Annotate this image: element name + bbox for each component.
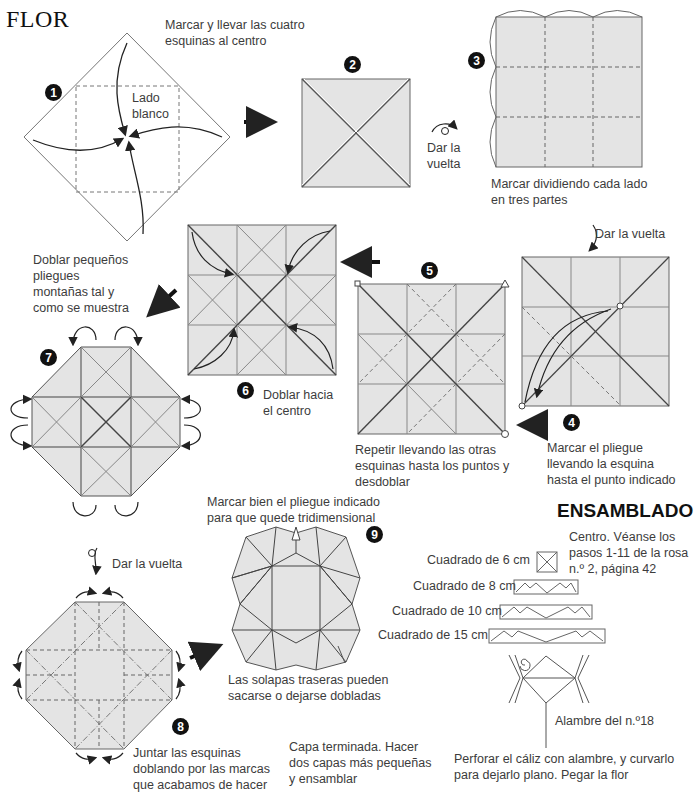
step-1-inner-label: Lado blanco	[132, 90, 169, 122]
step-9-badge: 9	[366, 526, 383, 543]
step9-diagram	[232, 527, 360, 670]
step-3-badge: 3	[468, 52, 485, 69]
step-3-turn-label: Dar la vuelta	[427, 140, 460, 172]
step-6-badge: 6	[237, 382, 254, 399]
step-9-caption-bottom: Las solapas traseras pueden sacarse o de…	[228, 672, 389, 704]
layer-label-6cm: Cuadrado de 6 cm	[427, 553, 530, 567]
step-7-badge: 7	[40, 349, 57, 366]
step-7-caption: Doblar pequeños pliegues montañas tal y …	[33, 252, 129, 316]
step8-diagram	[18, 548, 180, 759]
step-9-caption-final: Capa terminada. Hacer dos capas más pequ…	[289, 739, 431, 787]
step-2-badge: 2	[344, 56, 361, 73]
page-title: FLOR	[6, 6, 69, 33]
wire-label: Alambre del n.º18	[555, 714, 654, 728]
step4-diagram	[519, 225, 669, 409]
turn-over-icon	[432, 124, 456, 135]
step-6-caption: Doblar hacia el centro	[263, 387, 333, 419]
layer-label-15cm: Cuadrado de 15 cm	[378, 628, 488, 642]
step6-diagram	[188, 225, 336, 375]
assembly-center-note: Centro. Véanse los pasos 1-11 de la rosa…	[569, 529, 688, 577]
step5-diagram	[355, 280, 509, 438]
assembly-final-note: Perforar el cáliz con alambre, y curvarl…	[454, 751, 674, 783]
step-4-turn-label: Dar la vuelta	[595, 226, 665, 242]
step2-diagram	[302, 79, 410, 187]
assembly-heading: ENSAMBLADO	[557, 500, 693, 522]
step1-diagram	[24, 33, 230, 241]
step-8-turn-label: Dar la vuelta	[112, 556, 182, 572]
step-1-badge: 1	[45, 84, 62, 101]
step-4-caption: Marcar el pliegue llevando la esquina ha…	[547, 440, 676, 488]
step-8-caption: Juntar las esquinas doblando por las mar…	[133, 745, 270, 792]
step3-diagram	[490, 11, 642, 168]
step-9-caption-top: Marcar bien el pliegue indicado para que…	[207, 494, 380, 526]
layer-label-10cm: Cuadrado de 10 cm	[392, 604, 502, 618]
step-1-caption: Marcar y llevar las cuatro esquinas al c…	[165, 17, 305, 49]
step-5-badge: 5	[421, 262, 438, 279]
layer-label-8cm: Cuadrado de 8 cm	[413, 579, 516, 593]
step-5-caption: Repetir llevando las otras esquinas hast…	[355, 442, 509, 490]
step-8-badge: 8	[172, 718, 189, 735]
step-4-badge: 4	[563, 414, 580, 431]
step-3-caption: Marcar dividiendo cada lado en tres part…	[491, 176, 647, 208]
